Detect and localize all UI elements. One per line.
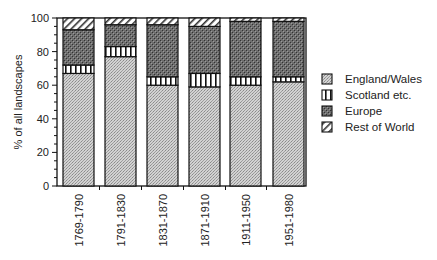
legend-swatch (322, 74, 332, 84)
x-tick-label: 1871-1910 (199, 194, 211, 247)
legend-item: England/Wales (322, 73, 422, 85)
legend-item: Scotland etc. (322, 89, 411, 101)
bar-segment-england-wales (147, 85, 178, 186)
bar-segment-rest-of-world (189, 18, 220, 26)
bar-1831-1870 (147, 18, 178, 186)
bar-segment-europe (105, 25, 136, 47)
bar-segment-england-wales (63, 73, 94, 186)
bar-1871-1910 (189, 18, 220, 186)
stacked-bar-chart: % of all landscapes 020406080100 1769-17… (0, 0, 437, 260)
bar-1791-1830 (105, 18, 136, 186)
y-tick-label: 40 (37, 113, 49, 125)
legend-item: Europe (322, 105, 382, 117)
bar-segment-rest-of-world (63, 18, 94, 30)
bar-segment-rest-of-world (230, 18, 261, 21)
legend-swatch (322, 106, 332, 116)
y-axis-label: % of all landscapes (12, 54, 24, 149)
x-tick-label: 1769-1790 (73, 194, 85, 247)
bar-segment-scotland-etc- (147, 77, 178, 85)
bar-segment-scotland-etc- (189, 73, 220, 86)
bar-1951-1980 (273, 18, 304, 186)
legend-label: England/Wales (345, 73, 422, 85)
legend-label: Rest of World (345, 121, 414, 133)
y-tick-label: 60 (37, 79, 49, 91)
bar-1911-1950 (230, 18, 261, 186)
y-tick-label: 80 (37, 46, 49, 58)
bar-segment-england-wales (273, 82, 304, 186)
bar-segment-rest-of-world (273, 18, 304, 21)
y-axis-title: % of all landscapes (12, 54, 24, 149)
x-tick-label: 1911-1950 (240, 194, 252, 246)
bar-segment-scotland-etc- (105, 47, 136, 57)
bar-segment-rest-of-world (147, 18, 178, 25)
x-tick-label: 1951-1980 (283, 194, 295, 247)
legend-label: Europe (345, 105, 382, 117)
x-tick-label: 1791-1830 (115, 194, 127, 247)
bar-segment-scotland-etc- (63, 65, 94, 73)
legend-swatch (322, 122, 332, 132)
bar-segment-england-wales (230, 85, 261, 186)
bar-segment-scotland-etc- (230, 77, 261, 85)
legend-item: Rest of World (322, 121, 414, 133)
bar-segment-europe (63, 30, 94, 65)
legend-swatch (322, 90, 332, 100)
bars (63, 18, 304, 186)
y-tick-label: 20 (37, 146, 49, 158)
legend-label: Scotland etc. (345, 89, 411, 101)
bar-segment-europe (147, 25, 178, 77)
bar-1769-1790 (63, 18, 94, 186)
bar-segment-europe (273, 21, 304, 76)
bar-segment-rest-of-world (105, 18, 136, 25)
legend: England/WalesScotland etc.EuropeRest of … (322, 73, 422, 133)
y-tick-label: 0 (43, 180, 49, 192)
bar-segment-scotland-etc- (273, 77, 304, 82)
x-axis-tick-labels: 1769-17901791-18301831-18701871-19101911… (73, 194, 295, 247)
bar-segment-europe (189, 26, 220, 73)
bar-segment-england-wales (105, 57, 136, 186)
bar-segment-england-wales (189, 87, 220, 186)
bar-segment-europe (230, 21, 261, 76)
x-tick-label: 1831-1870 (157, 194, 169, 247)
y-tick-label: 100 (31, 12, 49, 24)
